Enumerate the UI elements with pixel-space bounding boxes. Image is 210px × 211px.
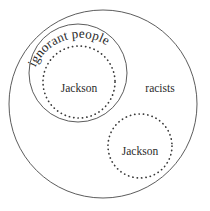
venn-diagram-svg: ignorant people racists Jackson Jackson — [0, 0, 210, 211]
venn-diagram-canvas: ignorant people racists Jackson Jackson — [0, 0, 210, 211]
label-jackson-lower: Jackson — [122, 145, 159, 157]
label-racists: racists — [145, 82, 175, 94]
label-jackson-upper: Jackson — [61, 82, 98, 94]
